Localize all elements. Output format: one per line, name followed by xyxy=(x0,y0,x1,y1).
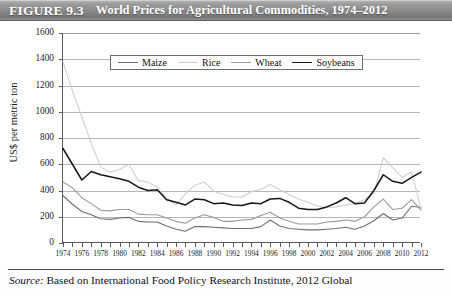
y-axis-tick-label: 1200 xyxy=(8,80,54,90)
legend-item-wheat[interactable]: Wheat xyxy=(231,57,281,68)
chart-legend: MaizeRiceWheatSoybeans xyxy=(110,55,363,70)
x-axis-tick xyxy=(214,243,215,247)
x-axis-tick xyxy=(120,243,121,247)
legend-label: Soybeans xyxy=(316,57,354,68)
x-axis-tick xyxy=(195,243,196,247)
x-axis-tick xyxy=(317,243,318,247)
series-line-soybeans xyxy=(63,149,421,210)
x-axis-tick xyxy=(110,243,111,247)
y-axis-tick-label: 1600 xyxy=(8,27,54,37)
legend-swatch-soybeans-icon xyxy=(292,62,312,63)
legend-swatch-rice-icon xyxy=(178,62,198,63)
x-axis-tick xyxy=(138,243,139,247)
x-axis-tick xyxy=(289,243,290,247)
x-axis-tick xyxy=(91,243,92,247)
x-axis-tick xyxy=(176,243,177,247)
y-axis-tick-label: 1000 xyxy=(8,106,54,116)
legend-item-soybeans[interactable]: Soybeans xyxy=(292,57,354,68)
x-axis-tick xyxy=(101,243,102,247)
x-axis-tick xyxy=(346,243,347,247)
x-axis-tick xyxy=(412,243,413,247)
x-axis-tick xyxy=(364,243,365,247)
figure-title-text: World Prices for Agricultural Commoditie… xyxy=(96,3,388,18)
figure-number-label: FIGURE 9.3 xyxy=(9,3,84,19)
figure-title-band: FIGURE 9.3 World Prices for Agricultural… xyxy=(0,0,452,21)
x-axis-tick xyxy=(242,243,243,247)
source-divider xyxy=(8,269,444,270)
figure-panel: FIGURE 9.3 World Prices for Agricultural… xyxy=(0,0,452,295)
legend-label: Maize xyxy=(142,57,167,68)
x-axis-tick xyxy=(72,243,73,247)
x-axis-tick xyxy=(374,243,375,247)
y-axis-tick-label: 200 xyxy=(8,211,54,221)
x-axis-tick xyxy=(233,243,234,247)
legend-item-rice[interactable]: Rice xyxy=(178,57,220,68)
x-axis-tick xyxy=(157,243,158,247)
series-line-wheat xyxy=(63,182,421,224)
x-axis-tick xyxy=(421,243,422,247)
y-axis-tick-label: 600 xyxy=(8,158,54,168)
x-axis-tick xyxy=(327,243,328,247)
x-axis-tick xyxy=(148,243,149,247)
x-axis-tick xyxy=(185,243,186,247)
legend-swatch-wheat-icon xyxy=(231,62,251,63)
y-axis-tick-label: 800 xyxy=(8,132,54,142)
y-axis-tick-label: 0 xyxy=(8,237,54,247)
legend-label: Rice xyxy=(202,57,220,68)
y-axis-tick-label: 400 xyxy=(8,185,54,195)
series-line-rice xyxy=(63,62,421,209)
source-prefix: Source: xyxy=(9,274,44,286)
x-axis-tick xyxy=(299,243,300,247)
x-axis-tick xyxy=(270,243,271,247)
x-axis-tick xyxy=(167,243,168,247)
x-axis-tick xyxy=(355,243,356,247)
x-axis-tick xyxy=(251,243,252,247)
legend-item-maize[interactable]: Maize xyxy=(118,57,167,68)
x-axis-tick xyxy=(336,243,337,247)
x-axis-tick xyxy=(82,243,83,247)
x-axis-tick-label: 2012 xyxy=(408,249,434,258)
x-axis-tick xyxy=(63,243,64,247)
source-caption: Source: Based on International Food Poli… xyxy=(9,274,445,287)
legend-label: Wheat xyxy=(255,57,281,68)
x-axis-tick xyxy=(280,243,281,247)
x-axis-tick xyxy=(393,243,394,247)
x-axis-tick xyxy=(402,243,403,247)
source-text: Based on International Food Policy Resea… xyxy=(47,274,353,286)
y-axis-label: US$ per metric ton xyxy=(8,48,19,198)
y-axis-tick-label: 1400 xyxy=(8,53,54,63)
x-axis-tick xyxy=(129,243,130,247)
x-axis-tick xyxy=(261,243,262,247)
x-axis-tick xyxy=(308,243,309,247)
x-axis-tick xyxy=(223,243,224,247)
legend-swatch-maize-icon xyxy=(118,62,138,63)
x-axis-tick xyxy=(383,243,384,247)
chart-area: US$ per metric ton 020040060080010001200… xyxy=(0,21,452,265)
x-axis-tick xyxy=(204,243,205,247)
